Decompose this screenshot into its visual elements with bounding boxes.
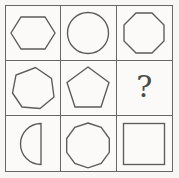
missing-shape-question-mark: ? [136, 72, 152, 104]
semicircle-shape [8, 119, 58, 169]
square-shape [119, 119, 169, 169]
matrix-cell-r1c2[interactable] [61, 6, 116, 61]
shape-matrix-puzzle: ? [0, 0, 179, 178]
matrix-cell-r3c3[interactable] [117, 116, 172, 171]
matrix-cell-r3c2[interactable] [61, 116, 116, 171]
matrix-cell-r1c3[interactable] [117, 6, 172, 61]
matrix-cell-r3c1[interactable] [6, 116, 61, 171]
pentagon-shape [63, 63, 113, 113]
heptagon-shape [8, 63, 58, 113]
matrix-cell-r1c1[interactable] [6, 6, 61, 61]
nonagon-shape [63, 119, 113, 169]
hexagon-shape [8, 8, 58, 58]
octagon-shape [119, 8, 169, 58]
circle-shape [63, 8, 113, 58]
matrix-cell-r2c3-missing[interactable]: ? [117, 61, 172, 116]
matrix-grid: ? [5, 5, 173, 172]
matrix-cell-r2c2[interactable] [61, 61, 116, 116]
matrix-cell-r2c1[interactable] [6, 61, 61, 116]
